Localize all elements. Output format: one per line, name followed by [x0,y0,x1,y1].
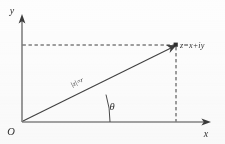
complex-plane-figure: y x O θ |z|=r z=x+iy [0,0,225,144]
angle-theta-label: θ [109,101,114,112]
point-z-marker [174,43,178,47]
modulus-label: |z|=r [69,75,84,87]
point-z-label: z=x+iy [179,41,205,50]
origin-label: O [7,126,15,137]
x-axis-label: x [203,128,209,139]
y-axis-label: y [9,5,15,16]
figure-canvas: y x O θ |z|=r z=x+iy [0,0,225,144]
position-vector-line [23,48,171,121]
